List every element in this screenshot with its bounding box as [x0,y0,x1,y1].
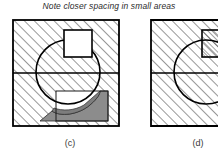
figure-d [150,19,218,129]
figure-label-c: (c) [40,138,100,148]
caption-text: Note closer spacing in small areas [0,1,218,11]
figure-d-drawing [150,19,218,129]
white-square-c [64,30,92,57]
hatch-lower-d [151,73,218,126]
hatch-small-area-d [202,30,218,57]
figure-label-d: (d) [178,138,218,148]
figure-c [12,19,122,129]
diagram-root: Note closer spacing in small areas [0,0,218,161]
figure-c-drawing [12,19,122,129]
